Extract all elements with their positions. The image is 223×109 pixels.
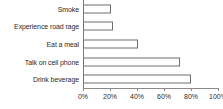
category-label: Drink beverage — [33, 75, 79, 84]
bar — [83, 57, 180, 66]
category-label: Eat a meal — [47, 39, 79, 48]
x-tick-label: 80% — [184, 93, 198, 100]
x-axis-line — [83, 88, 218, 89]
category-label: Talk on cell phone — [25, 57, 79, 66]
category-label: Smoke — [58, 4, 79, 13]
x-tick-label: 20% — [103, 93, 117, 100]
x-tick-mark — [218, 88, 219, 91]
bar-row: Smoke — [0, 0, 223, 18]
bar — [83, 39, 138, 48]
x-tick-label: 100% — [209, 93, 223, 100]
bar — [83, 4, 111, 13]
x-tick-label: 40% — [130, 93, 144, 100]
x-tick-label: 0% — [78, 93, 88, 100]
bar-row: Talk on cell phone — [0, 53, 223, 71]
bar-chart: SmokeExperience road rageEat a mealTalk … — [0, 0, 223, 109]
category-label: Experience road rage — [14, 22, 79, 31]
x-tick-mark — [137, 88, 138, 91]
bar — [83, 75, 191, 84]
x-tick-mark — [164, 88, 165, 91]
x-tick-mark — [110, 88, 111, 91]
x-tick-mark — [191, 88, 192, 91]
bar-row: Eat a meal — [0, 35, 223, 53]
bar-row: Drink beverage — [0, 70, 223, 88]
bar — [83, 22, 113, 31]
bar-row: Experience road rage — [0, 18, 223, 36]
x-tick-label: 60% — [157, 93, 171, 100]
x-tick-mark — [83, 88, 84, 91]
